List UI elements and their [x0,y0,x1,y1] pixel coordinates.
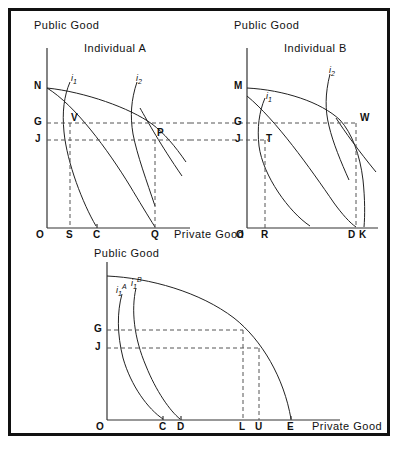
panel-c-curve-label-i1a: i1A [116,283,127,297]
panel-b-curve-label-i1: i1 [266,92,272,103]
panel-b-point-t: T [266,134,272,144]
panel-b-ytick-j: J [235,134,241,144]
panel-b-title: Individual B [284,43,347,54]
panel-a-curve-i1 [63,82,96,226]
panel-b-curve-label-i2: i2 [329,66,335,77]
panel-c-y-axis-title: Public Good [94,248,159,259]
panel-b-curve-i1-lower [247,96,356,227]
panel-c-xtick-o: O [96,422,104,432]
panel-c-curve-i1a [118,294,163,419]
panel-a-xtick-q: Q [151,230,159,240]
panel-a-curve-label-i1: i1 [71,74,77,85]
panel-a-point-p: P [157,128,164,138]
panel-c-xtick-u: U [255,422,262,432]
panel-c-xtick-e: E [287,422,294,432]
panel-c-x-axis-title: Private Good [312,421,382,432]
panel-c-xtick-c: C [159,422,166,432]
figure: Public Good Individual A N G J O S C Q P… [0,0,398,452]
panel-a-xtick-o: O [36,230,44,240]
panel-c-ytick-j: J [95,342,101,352]
panel-b-ytick-m: M [234,81,242,91]
panel-b-xtick-k: K [359,230,366,240]
figure-canvas [0,0,398,452]
panel-b-xtick-d: D [348,230,355,240]
panel-a-curve-i2 [131,82,155,206]
panel-a-curve-label-i2: i2 [136,74,142,85]
panel-a-title: Individual A [84,43,146,54]
panel-a-ytick-j: J [35,134,41,144]
panel-c-curve-label-i1b: i1B [131,276,142,290]
panel-a-x-axis-title: Private Good [174,229,244,240]
panel-a-xtick-c: C [93,230,100,240]
panel-b-ytick-g: G [234,117,242,127]
panel-a-ytick-g: G [34,117,42,127]
panel-b-curve-i1 [258,98,310,226]
panel-c-curve-i1b [134,288,180,419]
panel-a-point-v: V [71,113,78,123]
panel-b-point-w: W [360,113,369,123]
panel-b-xtick-o: O [236,230,244,240]
panel-c-xtick-l: L [239,422,245,432]
panel-a-curve-i2-tangent [140,108,182,176]
panel-c-xtick-d: D [177,422,184,432]
panel-c-ytick-g: G [94,324,102,334]
panel-a-y-axis-title: Public Good [34,20,99,31]
panel-a-xtick-s: S [66,230,73,240]
panel-a-ytick-n: N [34,81,41,91]
panel-b-xtick-r: R [261,230,268,240]
panel-b-y-axis-title: Public Good [234,20,299,31]
